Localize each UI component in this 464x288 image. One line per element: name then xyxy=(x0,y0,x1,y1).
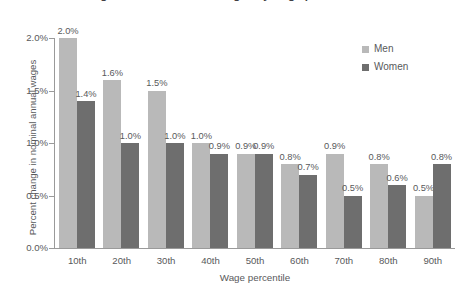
x-axis-title: Wage percentile xyxy=(55,272,455,283)
y-tick-mark xyxy=(49,196,54,197)
bar-value-label: 1.0% xyxy=(181,132,221,141)
legend-label: Men xyxy=(374,44,393,54)
legend-item-men[interactable]: Men xyxy=(362,43,458,55)
x-tick-label-90th: 90th xyxy=(411,255,455,266)
legend-label: Women xyxy=(374,62,408,72)
y-tick-label: 0.0% xyxy=(12,243,48,253)
x-tick-label-60th: 60th xyxy=(277,255,321,266)
bar-men-50th[interactable] xyxy=(237,154,255,249)
y-tick-label: 1.5% xyxy=(12,86,48,96)
x-tick-label-40th: 40th xyxy=(189,255,233,266)
bar-women-80th[interactable] xyxy=(388,185,406,248)
bar-chart: Percent change in nominal annual wages 0… xyxy=(0,0,464,288)
legend-swatch-women xyxy=(362,64,369,71)
bar-value-label: 1.5% xyxy=(137,79,177,88)
x-axis-line xyxy=(54,248,455,249)
bar-men-70th[interactable] xyxy=(326,154,344,249)
y-tick-mark xyxy=(49,91,54,92)
bar-women-10th[interactable] xyxy=(77,101,95,248)
bar-group: 1.6%1.0% xyxy=(99,38,143,248)
chart-legend: MenWomen xyxy=(362,43,458,79)
bar-women-70th[interactable] xyxy=(344,196,362,249)
y-tick-mark xyxy=(49,248,54,249)
legend-swatch-men xyxy=(362,46,369,53)
y-tick-mark xyxy=(49,38,54,39)
bar-men-60th[interactable] xyxy=(281,164,299,248)
bar-men-20th[interactable] xyxy=(103,80,121,248)
legend-item-women[interactable]: Women xyxy=(362,61,458,73)
bar-women-90th[interactable] xyxy=(433,164,451,248)
bar-group: 0.9%0.9% xyxy=(233,38,277,248)
y-tick-mark xyxy=(49,143,54,144)
bar-men-90th[interactable] xyxy=(415,196,433,249)
bar-women-60th[interactable] xyxy=(299,175,317,249)
bar-value-label: 0.8% xyxy=(359,153,399,162)
x-tick-label-10th: 10th xyxy=(55,255,99,266)
bar-men-10th[interactable] xyxy=(59,38,77,248)
bar-women-30th[interactable] xyxy=(166,143,184,248)
bar-value-label: 2.0% xyxy=(48,27,88,36)
y-tick-label: 0.5% xyxy=(12,191,48,201)
y-tick-label: 1.0% xyxy=(12,138,48,148)
bar-women-50th[interactable] xyxy=(255,154,273,249)
x-tick-label-50th: 50th xyxy=(233,255,277,266)
bar-men-40th[interactable] xyxy=(192,143,210,248)
y-tick-label: 2.0% xyxy=(12,33,48,43)
bar-value-label: 1.6% xyxy=(92,69,132,78)
y-axis-tick-labels: 0.0%0.5%1.0%1.5%2.0% xyxy=(8,0,48,288)
bar-value-label: 0.9% xyxy=(315,142,355,151)
bar-women-40th[interactable] xyxy=(210,154,228,249)
x-tick-label-20th: 20th xyxy=(100,255,144,266)
x-axis-tick-labels: 10th20th30th40th50th60th70th80th90th xyxy=(55,255,455,271)
x-tick-label-70th: 70th xyxy=(322,255,366,266)
x-tick-label-30th: 30th xyxy=(144,255,188,266)
bar-value-label: 0.8% xyxy=(422,153,462,162)
bar-men-30th[interactable] xyxy=(148,91,166,249)
bar-group: 1.5%1.0% xyxy=(144,38,188,248)
bar-group: 0.9%0.5% xyxy=(322,38,366,248)
bar-value-label: 0.8% xyxy=(270,153,310,162)
x-tick-label-80th: 80th xyxy=(366,255,410,266)
bar-women-20th[interactable] xyxy=(121,143,139,248)
